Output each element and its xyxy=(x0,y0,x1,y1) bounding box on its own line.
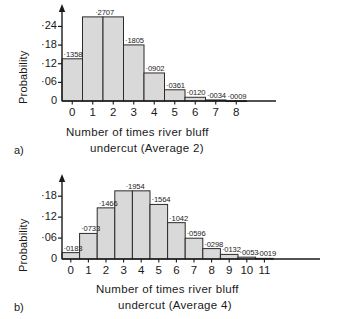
y-axis-arrow-icon xyxy=(59,4,65,12)
bar-value-label: ·0019 xyxy=(257,249,276,258)
bar xyxy=(103,17,124,101)
panel-label-b: b) xyxy=(14,301,24,313)
bar-value-label: ·0132 xyxy=(222,245,241,254)
bar-value-label: ·1358 xyxy=(64,50,83,59)
x-tick-label: 2 xyxy=(102,106,124,118)
chart-panel-a: Probability 0·06·12·18·24 012345678 ·135… xyxy=(0,0,344,162)
bar xyxy=(168,223,186,259)
bar-value-label: ·0009 xyxy=(228,92,247,101)
x-axis-title-b-line1: Number of times river bluff xyxy=(96,283,239,295)
bar-group-a xyxy=(62,17,247,102)
bar-value-label: ·0596 xyxy=(187,229,206,238)
bar xyxy=(165,90,186,101)
y-axis-title-a: Probability xyxy=(17,50,29,104)
bar-value-label: ·0053 xyxy=(240,248,259,257)
x-tick-label: 0 xyxy=(61,106,83,118)
x-tick-label: 3 xyxy=(123,106,145,118)
bar xyxy=(203,249,221,259)
bar-value-label: ·0361 xyxy=(166,81,185,90)
bar xyxy=(97,208,115,259)
x-tick-label: 1 xyxy=(82,106,104,118)
bar-value-label: ·1954 xyxy=(126,182,145,191)
bar xyxy=(62,59,83,101)
x-tick-label: 8 xyxy=(225,106,247,118)
bar-value-label: ·1042 xyxy=(169,214,188,223)
bar-value-label: ·0733 xyxy=(81,224,100,233)
y-tick-label: 0 xyxy=(30,94,57,106)
bar-value-label: ·1466 xyxy=(99,199,118,208)
bar-value-label: ·0902 xyxy=(146,64,165,73)
x-axis-title-b-line2: undercut (Average 4) xyxy=(118,299,232,311)
bar-value-label: ·0120 xyxy=(187,88,206,97)
x-tick-label: 5 xyxy=(164,106,186,118)
bar xyxy=(144,73,165,101)
x-tick-label: 7 xyxy=(205,106,227,118)
bar-value-label: ·0298 xyxy=(204,240,223,249)
y-axis-arrow-icon xyxy=(59,174,65,182)
bar xyxy=(124,45,145,101)
bar xyxy=(132,191,150,259)
y-tick-label: ·06 xyxy=(30,75,57,87)
bar-value-label: ·0183 xyxy=(64,244,83,253)
y-tick-label: ·24 xyxy=(30,19,57,31)
bar-value-label: ·2707 xyxy=(95,8,114,17)
x-axis-title-a-line1: Number of times river bluff xyxy=(66,126,209,138)
x-tick-label: 6 xyxy=(184,106,206,118)
bar-value-label: ·1564 xyxy=(152,195,171,204)
y-tick-label: ·06 xyxy=(30,231,57,243)
y-tick-label: ·18 xyxy=(30,38,57,50)
y-tick-label: ·12 xyxy=(30,210,57,222)
x-tick-label: 11 xyxy=(253,264,275,276)
bar xyxy=(62,253,80,259)
bar-value-label: ·1805 xyxy=(125,36,144,45)
bar xyxy=(150,204,168,259)
panel-label-a: a) xyxy=(14,144,24,156)
x-tick-label: 4 xyxy=(143,106,165,118)
bar xyxy=(83,17,104,101)
x-axis-title-a-line2: undercut (Average 2) xyxy=(90,142,204,154)
y-axis-title-b: Probability xyxy=(17,218,29,272)
y-tick-label: ·18 xyxy=(30,189,57,201)
y-tick-label: 0 xyxy=(30,252,57,264)
bar-value-label: ·0034 xyxy=(207,91,226,100)
y-tick-label: ·12 xyxy=(30,57,57,69)
bar xyxy=(185,238,203,259)
